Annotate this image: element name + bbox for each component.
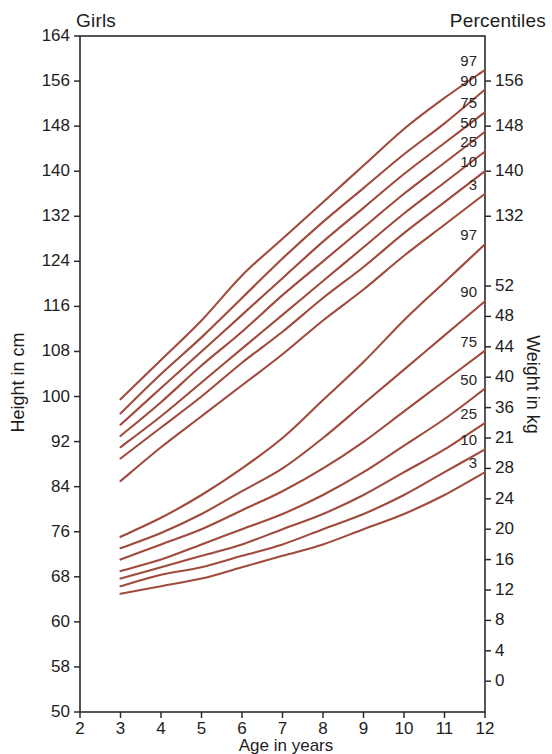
y-axis-right-weight-tick-44: 44 xyxy=(495,338,552,355)
x-axis-tick-11: 11 xyxy=(425,720,465,737)
height-percentile-25 xyxy=(121,151,486,447)
y-axis-left-tick-58: 58 xyxy=(10,658,70,675)
y-axis-right-weight-tick-40: 40 xyxy=(495,368,552,385)
height-percentile-label-10: 10 xyxy=(443,154,477,169)
x-axis-tick-7: 7 xyxy=(263,720,303,737)
x-axis-tick-2: 2 xyxy=(60,720,100,737)
height-percentile-label-50: 50 xyxy=(443,115,477,130)
y-axis-left-tick-50: 50 xyxy=(10,703,70,720)
y-axis-left-tick-100: 100 xyxy=(10,388,70,405)
y-axis-right-weight-tick-12: 12 xyxy=(495,581,552,598)
height-percentile-label-97: 97 xyxy=(443,53,477,68)
y-axis-left-tick-76: 76 xyxy=(10,523,70,540)
y-axis-left-tick-148: 148 xyxy=(10,117,70,134)
y-axis-right-weight-tick-36: 36 xyxy=(495,399,552,416)
y-axis-right-height-tick-156: 156 xyxy=(495,72,552,89)
weight-percentile-label-10: 10 xyxy=(443,432,477,447)
weight-percentile-10 xyxy=(121,449,486,586)
growth-chart: Girls Percentiles Height in cm Weight in… xyxy=(0,0,552,754)
weight-percentile-label-97: 97 xyxy=(443,227,477,242)
height-percentile-label-90: 90 xyxy=(443,73,477,88)
x-axis-tick-4: 4 xyxy=(141,720,181,737)
weight-percentile-label-25: 25 xyxy=(443,406,477,421)
height-percentile-label-3: 3 xyxy=(443,177,477,192)
plot-frame xyxy=(80,36,485,712)
y-axis-left-tick-164: 164 xyxy=(10,27,70,44)
y-axis-right-weight-tick-4: 4 xyxy=(495,642,552,659)
y-axis-right-weight-tick-21: 21 xyxy=(495,429,552,446)
y-axis-left-tick-156: 156 xyxy=(10,72,70,89)
x-axis-tick-5: 5 xyxy=(182,720,222,737)
x-axis-tick-8: 8 xyxy=(303,720,343,737)
y-axis-left-tick-60: 60 xyxy=(10,613,70,630)
weight-percentile-label-90: 90 xyxy=(443,284,477,299)
y-axis-left-tick-116: 116 xyxy=(10,297,70,314)
y-axis-right-weight-tick-16: 16 xyxy=(495,551,552,568)
y-axis-right-height-tick-132: 132 xyxy=(495,207,552,224)
height-percentile-3 xyxy=(121,194,486,481)
height-percentile-label-25: 25 xyxy=(443,134,477,149)
y-axis-left-tick-132: 132 xyxy=(10,207,70,224)
y-axis-left-tick-124: 124 xyxy=(10,252,70,269)
weight-percentile-label-3: 3 xyxy=(443,455,477,470)
weight-percentile-label-75: 75 xyxy=(443,334,477,349)
height-percentile-75 xyxy=(121,112,486,425)
height-percentile-label-75: 75 xyxy=(443,95,477,110)
y-axis-left-tick-108: 108 xyxy=(10,342,70,359)
x-axis-tick-3: 3 xyxy=(101,720,141,737)
weight-percentile-3 xyxy=(121,472,486,594)
y-axis-right-height-tick-148: 148 xyxy=(495,117,552,134)
y-axis-right-weight-tick-52: 52 xyxy=(495,277,552,294)
x-axis-tick-10: 10 xyxy=(384,720,424,737)
y-axis-left-tick-84: 84 xyxy=(10,478,70,495)
y-axis-right-weight-tick-8: 8 xyxy=(495,611,552,628)
y-axis-right-weight-tick-24: 24 xyxy=(495,490,552,507)
y-axis-right-weight-tick-48: 48 xyxy=(495,307,552,324)
weight-percentile-label-50: 50 xyxy=(443,372,477,387)
y-axis-right-weight-tick-28: 28 xyxy=(495,459,552,476)
y-axis-right-height-tick-140: 140 xyxy=(495,162,552,179)
y-axis-left-tick-92: 92 xyxy=(10,433,70,450)
height-percentile-90 xyxy=(121,90,486,414)
x-axis-tick-6: 6 xyxy=(222,720,262,737)
y-axis-left-tick-140: 140 xyxy=(10,162,70,179)
height-percentile-10 xyxy=(121,171,486,458)
x-axis-tick-9: 9 xyxy=(344,720,384,737)
axis-tick-marks xyxy=(74,36,491,718)
y-axis-right-weight-tick-0: 0 xyxy=(495,672,552,689)
y-axis-left-tick-68: 68 xyxy=(10,568,70,585)
y-axis-right-weight-tick-20: 20 xyxy=(495,520,552,537)
x-axis-tick-12: 12 xyxy=(465,720,505,737)
